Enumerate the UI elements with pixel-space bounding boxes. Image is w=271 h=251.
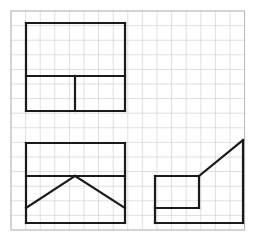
figures-layer — [26, 23, 243, 223]
figure-top-left — [26, 23, 125, 111]
chevron-left-slope — [26, 176, 75, 208]
figure-drawing-surface — [0, 0, 271, 251]
grid-lines-layer — [11, 11, 245, 230]
chevron-right-slope — [75, 176, 125, 208]
worksheet-canvas — [0, 0, 271, 251]
figure-bottom-left — [26, 143, 125, 223]
diagonal-ramp — [199, 140, 243, 176]
